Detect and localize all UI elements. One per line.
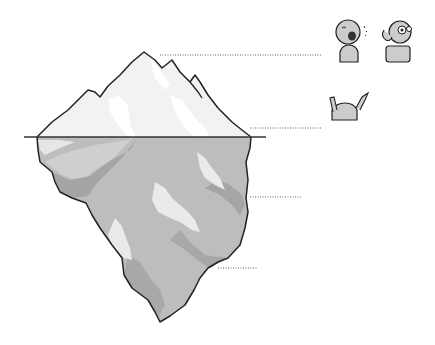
iceberg-tip	[37, 52, 251, 137]
talking-person-icon	[336, 20, 367, 62]
gesturing-person-icon	[330, 93, 368, 120]
iceberg-illustration	[0, 0, 435, 345]
iceberg-diagram	[0, 0, 435, 345]
iceberg-underwater	[37, 135, 251, 322]
listening-person-icon	[382, 21, 411, 62]
